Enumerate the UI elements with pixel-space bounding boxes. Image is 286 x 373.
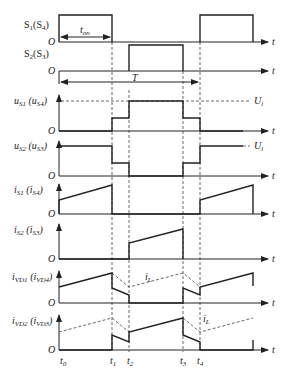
svg-text:t: t (272, 208, 275, 219)
svg-text:t: t (272, 170, 275, 181)
label-is1: iS1 (iS4) (14, 184, 43, 197)
svg-text:O: O (48, 65, 55, 76)
svg-text:O: O (48, 125, 55, 136)
svg-text:O: O (48, 297, 55, 308)
time-marker-lines (112, 42, 200, 352)
trace-is1: iS1 (iS4) O t (14, 184, 275, 219)
t4-label: t4 (197, 355, 204, 368)
trace-us2: uS2 (uS3) Ui O t (14, 140, 275, 181)
period-label: T (132, 72, 139, 83)
label-is2: iS2 (iS3) (14, 224, 43, 237)
ui-label-2: Ui (254, 140, 263, 153)
ton-label: ton (80, 24, 90, 37)
trace-s2: S2(S3) O t T (24, 45, 275, 84)
svg-text:t: t (272, 125, 275, 136)
t2-label: t2 (127, 355, 134, 368)
t0-label: t0 (60, 355, 67, 368)
svg-text:t: t (272, 65, 275, 76)
label-ivd1: iVD1 (iVD4) (12, 271, 53, 284)
t3-label: t3 (180, 355, 187, 368)
label-ivd2: iVD2 (iVD3) (12, 315, 53, 328)
trace-ivd2: iVD2 (iVD3) O t iL (12, 313, 275, 355)
label-s2: S2(S3) (24, 48, 49, 61)
ui-label-1: Ui (254, 95, 263, 108)
il-label-2: iL (203, 313, 210, 326)
svg-text:t: t (272, 297, 275, 308)
il-label-1: iL (145, 271, 152, 284)
trace-us1: uS1 (uS4) Ui O t (14, 95, 275, 136)
label-us2: uS2 (uS3) (14, 140, 48, 153)
svg-text:O: O (48, 344, 55, 355)
svg-text:O: O (48, 208, 55, 219)
t1-label: t1 (110, 355, 116, 368)
svg-text:O: O (48, 253, 55, 264)
svg-text:t: t (272, 253, 275, 264)
axis-t-label: t (272, 36, 275, 47)
trace-ivd1: iVD1 (iVD4) O t iL (12, 271, 275, 308)
label-s1: S1(S4) (24, 19, 49, 32)
trace-s1: S1(S4) O t ton (24, 15, 275, 47)
svg-text:O: O (48, 170, 55, 181)
svg-text:t: t (272, 344, 275, 355)
timing-diagram: S1(S4) O t ton S2(S3) O t T uS1 (uS4) Ui… (0, 0, 286, 373)
origin-label: O (48, 36, 55, 47)
time-labels: t0 t1 t2 t3 t4 (60, 355, 204, 368)
label-us1: uS1 (uS4) (14, 95, 48, 108)
trace-is2: iS2 (iS3) O t (14, 224, 275, 264)
